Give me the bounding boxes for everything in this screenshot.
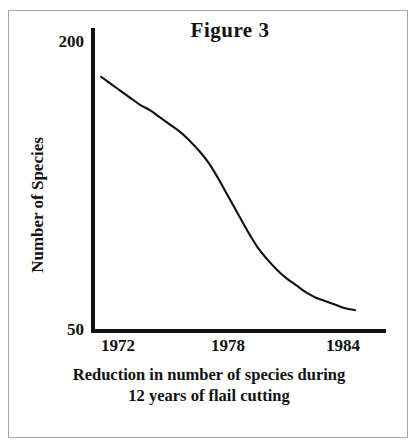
figure-caption: Reduction in number of species during 12… [14,364,404,406]
data-series-line [101,77,355,310]
figure-caption-line-2: 12 years of flail cutting [14,385,404,406]
figure-caption-line-1: Reduction in number of species during [14,364,404,385]
plot-area: Figure 3 Number of Species 200 50 1972 1… [0,0,418,448]
figure-root: Figure 3 Number of Species 200 50 1972 1… [0,0,418,448]
